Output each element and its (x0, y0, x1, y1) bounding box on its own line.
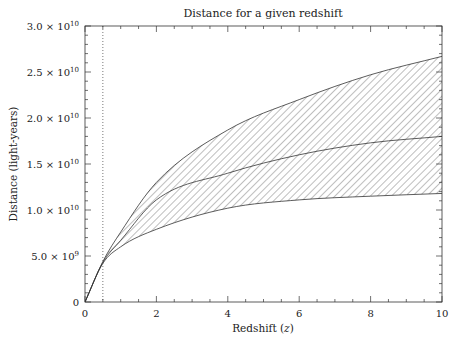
x-tick-label: 6 (296, 308, 302, 319)
y-tick-label: 0 (73, 297, 79, 308)
chart: Distance for a given redshift 0246810 05… (0, 0, 455, 351)
x-tick-label: 0 (82, 308, 88, 319)
x-tick-label: 10 (436, 308, 449, 319)
x-tick-label: 4 (225, 308, 231, 319)
y-tick-label: 2.0 × 1010 (27, 112, 79, 124)
y-tick-label: 1.0 × 1010 (27, 204, 79, 216)
y-tick-label: 1.5 × 1010 (27, 158, 79, 170)
x-tick-label: 2 (153, 308, 159, 319)
y-tick-label: 5.0 × 109 (31, 250, 79, 262)
y-axis-label: Distance (light-years) (7, 107, 19, 222)
chart-title: Distance for a given redshift (183, 7, 343, 20)
x-tick-label: 8 (367, 308, 373, 319)
plot-area (85, 56, 442, 302)
y-tick-label: 2.5 × 1010 (27, 66, 79, 78)
hatched-region (85, 56, 442, 302)
y-tick-label: 3.0 × 1010 (27, 20, 79, 32)
x-axis-label: Redshift (z) (232, 322, 294, 334)
